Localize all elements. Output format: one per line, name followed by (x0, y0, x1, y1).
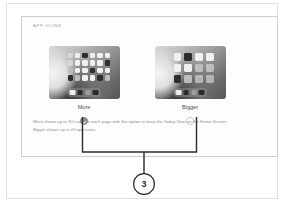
app-icon (75, 60, 80, 65)
app-icon (195, 75, 203, 83)
app-icon (75, 53, 80, 58)
app-icon (105, 75, 110, 80)
dock-icon (85, 90, 90, 95)
panel-title: APP ICONS (33, 23, 62, 28)
app-icon (90, 68, 95, 73)
app-icon (184, 75, 192, 83)
ipad-dock (174, 88, 207, 97)
app-icon (105, 60, 110, 65)
app-icon (75, 75, 80, 80)
app-icon (97, 53, 102, 58)
dock-icon (176, 90, 181, 95)
page-frame: APP ICONS (6, 3, 278, 199)
app-icon (68, 53, 73, 58)
dock-icon (93, 90, 98, 95)
app-icon (206, 64, 214, 72)
callout-number: 3 (133, 173, 155, 195)
app-icon (184, 64, 192, 72)
app-icon (174, 64, 182, 72)
panel-caption: More shows up to 30 icons on each page w… (33, 118, 269, 133)
option-label-bigger: Bigger (144, 105, 236, 111)
dock-icon (184, 90, 189, 95)
app-icon (97, 68, 102, 73)
app-icons-settings-panel: APP ICONS (21, 16, 278, 157)
app-icon-grid-bigger (174, 53, 215, 83)
app-icon (174, 53, 182, 61)
ipad-home-screen-more-preview (49, 46, 120, 99)
app-icon (75, 68, 80, 73)
app-icon (82, 75, 87, 80)
app-icon (90, 75, 95, 80)
option-bigger[interactable]: Bigger (144, 46, 236, 125)
app-icon (105, 53, 110, 58)
app-icon (68, 60, 73, 65)
app-icon (206, 75, 214, 83)
app-icon (82, 53, 87, 58)
dock-icon (199, 90, 204, 95)
ipad-dock (68, 88, 101, 97)
option-label-more: More (38, 105, 130, 111)
app-icon (82, 68, 87, 73)
app-icon (184, 53, 192, 61)
app-icon (105, 68, 110, 73)
option-more[interactable]: More (38, 46, 130, 125)
app-icon (68, 75, 73, 80)
app-icon (90, 53, 95, 58)
caption-line-2: Bigger shows up to 20 app icons. (33, 126, 269, 134)
app-icon-grid-more (68, 53, 111, 81)
dock-icon (70, 90, 75, 95)
caption-line-1: More shows up to 30 icons on each page w… (33, 118, 269, 126)
app-icon (97, 75, 102, 80)
dock-icon (191, 90, 196, 95)
dock-icon (78, 90, 83, 95)
app-icon (195, 53, 203, 61)
app-icon (195, 64, 203, 72)
app-icon (97, 60, 102, 65)
app-icon (206, 53, 214, 61)
app-icon (68, 68, 73, 73)
app-icon (82, 60, 87, 65)
app-icon (174, 75, 182, 83)
app-icon (90, 60, 95, 65)
ipad-home-screen-bigger-preview (155, 46, 226, 99)
